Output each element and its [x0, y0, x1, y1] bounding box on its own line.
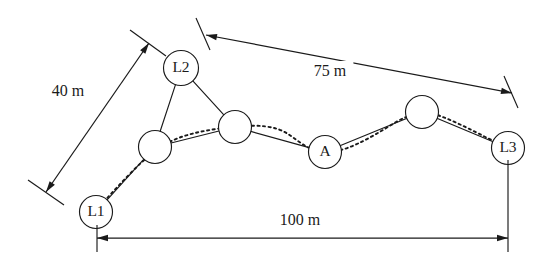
extension-line-end: [130, 30, 166, 56]
node-a[interactable]: A: [309, 136, 342, 169]
edge-n1-l2: [160, 84, 176, 133]
dimension-label: 75 m: [314, 62, 347, 79]
node-label: L1: [87, 202, 104, 219]
dimension-line: [206, 35, 512, 93]
arrow-head-start-icon: [97, 235, 108, 241]
diagram-canvas: L1L2AL3 40 m75 m100 m: [0, 0, 552, 264]
node-l3[interactable]: L3: [492, 132, 525, 165]
node-l2[interactable]: L2: [164, 51, 199, 86]
edge-n1-n2: [170, 131, 220, 143]
edge-n3-l3: [436, 118, 493, 142]
network-diagram: L1L2AL3 40 m75 m100 m: [0, 0, 552, 264]
node-relay-n1[interactable]: [139, 131, 172, 164]
dimension-label: 40 m: [52, 82, 85, 99]
node-label: L2: [172, 58, 189, 75]
node-circle: [139, 131, 172, 164]
node-circle: [219, 111, 252, 144]
extension-line-start: [196, 18, 210, 50]
dim-40m: 40 m: [28, 30, 166, 205]
node-label: A: [319, 142, 331, 159]
arrow-head-end-icon: [497, 235, 508, 241]
nodes-layer: L1L2AL3: [80, 51, 525, 229]
edge-n2-a: [250, 131, 310, 148]
dim-75m: 75 m: [196, 18, 518, 108]
edge-l2-n2: [192, 80, 224, 115]
dimension-label: 100 m: [280, 211, 321, 228]
arrow-head-start-icon: [206, 34, 217, 40]
arrow-head-start-icon: [46, 181, 55, 192]
dimension-line: [46, 43, 149, 192]
extension-line-start: [28, 180, 64, 205]
node-relay-n2[interactable]: [219, 111, 252, 144]
arrow-head-end-icon: [140, 43, 149, 54]
dim-100m: 100 m: [97, 160, 508, 252]
node-l1[interactable]: L1: [80, 196, 113, 229]
node-label: L3: [499, 138, 516, 155]
node-relay-n3[interactable]: [406, 96, 439, 129]
node-circle: [406, 96, 439, 129]
